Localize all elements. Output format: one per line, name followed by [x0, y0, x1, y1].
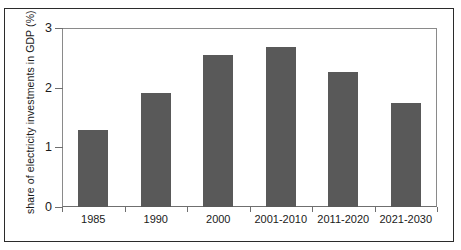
bar: [328, 72, 358, 207]
bar: [203, 55, 233, 207]
x-tick-label: 1990: [144, 213, 168, 225]
x-tick-label: 2011-2020: [317, 213, 369, 225]
x-tick-mark: [250, 207, 251, 212]
x-tick-label: 2001-2010: [254, 213, 307, 225]
y-tick-mark: [55, 147, 63, 148]
x-tick-mark: [437, 207, 438, 212]
bar: [391, 103, 421, 207]
plot-area: [62, 28, 437, 207]
y-tick-label: 3: [0, 21, 52, 35]
x-tick-label: 1985: [81, 213, 105, 225]
x-tick-mark: [312, 207, 313, 212]
y-tick-label: 0: [0, 200, 52, 214]
bar: [78, 130, 108, 207]
y-axis-title: share of electricity investments in GDP …: [24, 14, 36, 214]
x-tick-label: 2000: [206, 213, 230, 225]
x-tick-mark: [125, 207, 126, 212]
x-tick-label: 2021-2030: [379, 213, 432, 225]
chart-figure: share of electricity investments in GDP …: [0, 0, 461, 250]
y-tick-mark: [55, 28, 63, 29]
x-tick-mark: [187, 207, 188, 212]
bar: [266, 47, 296, 207]
y-tick-label: 2: [0, 81, 52, 95]
y-tick-label: 1: [0, 140, 52, 154]
x-tick-mark: [62, 207, 63, 212]
y-tick-mark: [55, 88, 63, 89]
x-tick-mark: [375, 207, 376, 212]
bar: [141, 93, 171, 207]
